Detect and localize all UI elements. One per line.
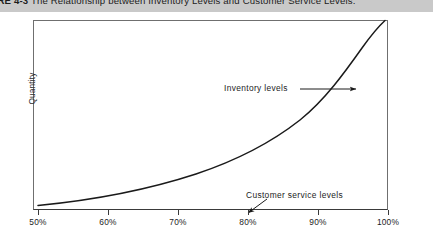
plot-frame (33, 20, 388, 210)
x-axis-tick (318, 210, 319, 215)
x-axis-tick-label: 70% (158, 217, 198, 227)
x-axis-tick (248, 210, 249, 215)
x-axis-tick-label: 50% (18, 217, 58, 227)
customer-service-levels-annotation: Customer service levels (246, 190, 343, 200)
figure-caption-band: FIGURE 4-3 The Relationship between Inve… (0, 0, 433, 12)
figure-caption: FIGURE 4-3 The Relationship between Inve… (0, 0, 356, 6)
x-axis-tick (108, 210, 109, 215)
figure-container: FIGURE 4-3 The Relationship between Inve… (0, 0, 433, 237)
x-axis-tick (178, 210, 179, 215)
x-axis-tick-label: 90% (298, 217, 338, 227)
x-axis-tick-label: 80% (228, 217, 268, 227)
x-axis-tick-label: 100% (368, 217, 408, 227)
figure-caption-text: The Relationship between Inventory Level… (31, 0, 356, 6)
x-axis-tick (388, 210, 389, 215)
x-axis-tick (38, 210, 39, 215)
y-axis-title: Quantity (28, 57, 37, 121)
inventory-levels-annotation: Inventory levels (224, 83, 288, 93)
figure-caption-label: FIGURE 4-3 (0, 0, 28, 6)
x-axis-tick-label: 60% (88, 217, 128, 227)
